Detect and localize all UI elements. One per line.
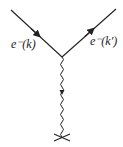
outgoing-electron-line <box>62 9 116 57</box>
feynman-diagram: e⁻(k) e⁻(k′) <box>0 0 123 147</box>
incoming-electron-label: e⁻(k) <box>11 37 36 51</box>
photon-propagator <box>61 57 64 137</box>
outgoing-electron-label: e⁻(k′) <box>90 34 117 48</box>
external-field-cross-icon <box>54 134 70 141</box>
